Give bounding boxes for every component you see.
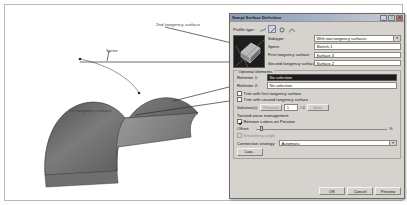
profile-type-toolbar xyxy=(258,25,295,33)
chevron-down-icon[interactable]: ▼ xyxy=(393,36,400,41)
remove-cutters-row[interactable]: Remove cutters on Preview xyxy=(237,119,397,124)
slider-thumb[interactable] xyxy=(260,126,263,131)
subtype-select[interactable]: With two tangency surfaces ▼ xyxy=(314,35,401,42)
chevron-down-icon[interactable]: ▼ xyxy=(389,141,396,146)
offset-unit-label: % xyxy=(389,126,397,131)
optional-elements-group: Optional elements Relimiter 1: No select… xyxy=(233,70,401,159)
profile-type-label: Profile type : xyxy=(233,27,256,32)
subtype-label: Subtype: xyxy=(268,36,314,41)
second-tangency-row: Second tangency surface: Surface.2 xyxy=(268,60,401,67)
preview-and-fields: Subtype: With two tangency surfaces ▼ Sp… xyxy=(233,35,401,68)
slider-track xyxy=(256,129,387,130)
dialog-titlebar[interactable]: Swept Surface Definition _ □ ✕ xyxy=(230,14,404,22)
fields-column: Subtype: With two tangency surfaces ▼ Sp… xyxy=(268,35,401,68)
dialog-footer: OK Cancel Preview xyxy=(319,187,401,195)
trim-first-checkbox[interactable] xyxy=(237,91,242,96)
law-button[interactable]: Law... xyxy=(237,148,263,156)
smoothing-angle-checkbox xyxy=(237,133,242,138)
spine-row: Spine: Sketch.1 xyxy=(268,43,401,50)
offset-slider-row: Offset: % xyxy=(237,126,397,132)
offset-label: Offset: xyxy=(237,126,253,131)
connection-strategy-label: Connection strategy: xyxy=(237,141,277,146)
relimiter1-label: Relimiter 1: xyxy=(237,75,267,80)
spine-label: Spine: xyxy=(268,44,314,49)
dialog-body: Profile type : xyxy=(230,22,404,159)
swept-surface-definition-dialog[interactable]: Swept Surface Definition _ □ ✕ Profile t… xyxy=(229,13,405,199)
second-tangency-label: Second tangency surface: xyxy=(268,61,314,66)
remove-cutters-label: Remove cutters on Preview xyxy=(244,119,295,124)
subtype-row: Subtype: With two tangency surfaces ▼ xyxy=(268,35,401,42)
relimiter1-row: Relimiter 1: No selection xyxy=(237,74,397,81)
cancel-button[interactable]: Cancel xyxy=(347,187,373,195)
circle-profile-icon[interactable] xyxy=(277,25,285,33)
second-tangency-input[interactable]: Surface.2 xyxy=(314,60,401,67)
solutions-row: Solution(s): Previous 1 / 4 Next xyxy=(237,104,397,112)
trim-first-row[interactable]: Trim with first tangency surface xyxy=(237,91,397,96)
connection-strategy-row: Connection strategy: Automatic ▼ xyxy=(237,140,397,147)
first-tangency-label: First tangency surface: xyxy=(268,52,314,57)
trim-second-row[interactable]: Trim with second tangency surface xyxy=(237,97,397,102)
label-second-tangency-surface: 2nd tangency surface xyxy=(156,22,200,27)
twisted-areas-label: Twisted areas management xyxy=(237,113,397,118)
optional-elements-title: Optional elements xyxy=(237,69,274,74)
trim-second-checkbox[interactable] xyxy=(237,97,242,102)
close-icon[interactable]: ✕ xyxy=(396,15,403,21)
connection-strategy-select[interactable]: Automatic ▼ xyxy=(279,140,397,147)
label-first-tangency-surface: 1st tangency surface xyxy=(69,108,112,113)
ok-button[interactable]: OK xyxy=(319,187,345,195)
remove-cutters-checkbox[interactable] xyxy=(237,119,242,124)
minimize-icon[interactable]: _ xyxy=(380,15,387,21)
relimiter2-label: Relimiter 2: xyxy=(237,83,267,88)
smoothing-angle-label: Smoothing angle xyxy=(244,133,275,138)
screen-root: 2nd tangency surface Spine 1st tangency … xyxy=(0,0,407,205)
profile-type-row: Profile type : xyxy=(233,25,401,33)
window-controls: _ □ ✕ xyxy=(380,15,403,21)
solutions-total-label: / 4 xyxy=(300,105,305,110)
solutions-count-input[interactable]: 1 xyxy=(284,104,298,111)
solutions-next-button[interactable]: Next xyxy=(307,104,329,112)
subtype-value: With two tangency surfaces xyxy=(317,36,367,41)
relimiter1-input[interactable]: No selection xyxy=(267,74,397,81)
solutions-previous-button[interactable]: Previous xyxy=(260,104,282,112)
maximize-icon[interactable]: □ xyxy=(388,15,395,21)
first-tangency-row: First tangency surface: Surface.3 xyxy=(268,52,401,59)
spine-curve xyxy=(79,58,141,95)
solutions-label: Solution(s): xyxy=(237,105,258,110)
profile-preview-thumbnail xyxy=(233,35,265,68)
spine-input[interactable]: Sketch.1 xyxy=(314,43,401,50)
conic-profile-icon[interactable] xyxy=(287,25,295,33)
smoothing-angle-row: Smoothing angle xyxy=(237,133,397,138)
preview-button[interactable]: Preview xyxy=(375,187,401,195)
trim-first-label: Trim with first tangency surface xyxy=(244,91,302,96)
connection-strategy-value: Automatic xyxy=(282,141,300,146)
explicit-profile-icon[interactable] xyxy=(258,25,266,33)
line-profile-icon[interactable] xyxy=(268,25,276,33)
first-tangency-input[interactable]: Surface.3 xyxy=(314,52,401,59)
relimiter2-row: Relimiter 2: No selection xyxy=(237,82,397,89)
relimiter2-input[interactable]: No selection xyxy=(267,82,397,89)
offset-slider[interactable] xyxy=(256,126,387,132)
dialog-title: Swept Surface Definition xyxy=(232,15,380,20)
trim-second-label: Trim with second tangency surface xyxy=(244,97,309,102)
label-spine: Spine xyxy=(106,48,118,53)
arch-surface xyxy=(45,98,198,187)
